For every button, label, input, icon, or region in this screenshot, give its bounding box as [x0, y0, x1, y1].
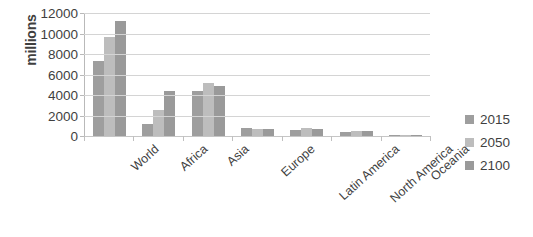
x-axis-category-label: Europe	[278, 142, 317, 179]
y-axis-tickmark	[80, 34, 84, 35]
bar	[192, 91, 203, 136]
bar	[312, 129, 323, 136]
legend-label: 2015	[480, 112, 510, 127]
x-axis-category-labels: WorldAfricaAsiaEuropeLatin AmericaNorth …	[84, 136, 430, 226]
gridline	[84, 13, 430, 14]
bar	[153, 110, 164, 136]
legend-label: 2050	[480, 135, 510, 150]
x-axis-category-label: Africa	[177, 142, 210, 174]
y-axis-tickmark	[80, 54, 84, 55]
y-axis-tick-label: 8000	[20, 47, 78, 62]
bar	[142, 124, 153, 136]
y-axis-tickmark	[80, 95, 84, 96]
bar	[252, 129, 263, 136]
bar	[301, 128, 312, 136]
bar	[263, 129, 274, 136]
x-axis-category-label: World	[128, 142, 161, 174]
y-axis-tick-labels: 020004000600080001000012000	[20, 0, 78, 140]
gridline	[84, 95, 430, 96]
y-axis-tickmark	[80, 75, 84, 76]
y-axis-tick-label: 10000	[20, 26, 78, 41]
gridline	[84, 54, 430, 55]
x-axis-category-label: Asia	[225, 142, 252, 169]
bar	[115, 21, 126, 136]
bar	[93, 61, 104, 136]
bar	[164, 91, 175, 136]
legend-item[interactable]: 2015	[465, 108, 510, 131]
bar	[241, 128, 252, 136]
gridline	[84, 75, 430, 76]
bar	[104, 37, 115, 136]
bar	[203, 83, 214, 136]
y-axis-tick-label: 2000	[20, 108, 78, 123]
legend-label: 2100	[480, 158, 510, 173]
legend-item[interactable]: 2050	[465, 131, 510, 154]
y-axis-tickmark	[80, 13, 84, 14]
legend-swatch-icon	[465, 161, 474, 170]
y-axis-tickmark	[80, 116, 84, 117]
x-axis-tickmark	[430, 136, 431, 141]
bar	[214, 86, 225, 136]
legend-swatch-icon	[465, 138, 474, 147]
legend-item[interactable]: 2100	[465, 154, 510, 177]
y-axis-tick-label: 4000	[20, 88, 78, 103]
y-axis-tick-label: 6000	[20, 67, 78, 82]
population-bar-chart: millions 020004000600080001000012000 Wor…	[0, 0, 533, 237]
y-axis-tick-label: 12000	[20, 6, 78, 21]
y-axis-tick-label: 0	[20, 129, 78, 144]
plot-area	[84, 13, 430, 136]
gridline	[84, 34, 430, 35]
chart-legend: 201520502100	[465, 108, 510, 177]
legend-swatch-icon	[465, 115, 474, 124]
gridline	[84, 116, 430, 117]
